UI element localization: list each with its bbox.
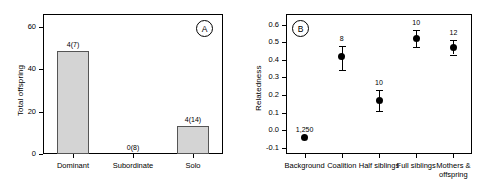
error-bar-cap [413,30,420,31]
x-tick-mark [379,154,380,158]
error-bar-cap [450,40,457,41]
data-point [450,44,457,51]
x-tick-mark [133,154,134,158]
bar-value-label: 0(8) [108,144,158,151]
y-tick-label: 0.5 [252,37,279,46]
y-tick-label: 0.4 [252,55,279,64]
y-tick-label: 0.2 [252,90,279,99]
y-tick-label: 0.3 [252,72,279,81]
y-tick-label: -0.1 [252,143,279,152]
x-tick-mark [416,154,417,158]
x-tick-mark [342,154,343,158]
y-tick-label: 20 [10,107,36,116]
y-tick-mark [282,42,286,43]
bar-value-label: 4(7) [48,41,98,48]
panel-a: A Total offspring 0204060 4(7)0(8)4(14) … [0,0,242,196]
panel-b: B Relatedness -0.10.00.10.20.30.40.50.6 … [242,0,484,196]
error-bar-cap [376,90,383,91]
x-tick-mark [453,154,454,158]
y-tick-mark [282,95,286,96]
y-tick-label: 0.6 [252,20,279,29]
panel-label-b: B [292,20,309,37]
y-tick-label: 0.1 [252,108,279,117]
y-tick-mark [282,113,286,114]
y-tick-label: 40 [10,64,36,73]
point-count-label: 10 [354,79,404,86]
error-bar-cap [376,111,383,112]
y-tick-mark [282,148,286,149]
error-bar-cap [339,46,346,47]
x-tick-label: Solo [153,161,233,170]
panel-label-a: A [196,20,213,37]
x-tick-mark [305,154,306,158]
x-tick-mark [73,154,74,158]
data-point [376,97,383,104]
point-count-label: 10 [391,19,441,26]
y-tick-label: 0.0 [252,125,279,134]
x-tick-label: Mothers & offspring [431,161,475,179]
y-tick-mark [39,27,43,28]
data-point [413,35,420,42]
y-tick-mark [39,112,43,113]
bar-value-label: 4(14) [168,116,218,123]
y-tick-label: 60 [10,22,36,31]
figure-root: A Total offspring 0204060 4(7)0(8)4(14) … [0,0,484,196]
y-tick-mark [39,69,43,70]
error-bar-cap [450,55,457,56]
point-count-label: 12 [428,29,478,36]
y-tick-mark [39,154,43,155]
data-point [301,134,308,141]
point-count-label: 1,250 [280,126,330,133]
point-count-label: 8 [317,35,367,42]
y-tick-mark [282,60,286,61]
error-bar-cap [413,47,420,48]
y-tick-mark [282,25,286,26]
y-tick-label: 0 [10,149,36,158]
y-tick-mark [282,77,286,78]
bar-solo [177,126,209,154]
bar-dominant [57,51,89,154]
x-tick-mark [193,154,194,158]
error-bar-cap [339,70,346,71]
